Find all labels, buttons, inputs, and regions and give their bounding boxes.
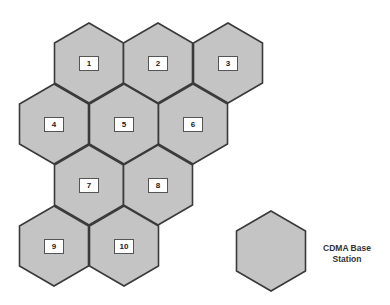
cell-label: 5 <box>114 117 134 132</box>
cell-label: 1 <box>79 56 99 71</box>
cell-label: 10 <box>114 239 134 254</box>
legend-hexagon-icon <box>237 211 306 291</box>
legend-label: CDMA Base Station <box>312 243 382 265</box>
legend-label-line1: CDMA Base <box>312 243 382 254</box>
cell-label: 3 <box>218 56 238 71</box>
cell-label: 7 <box>79 178 99 193</box>
cell-label: 9 <box>44 239 64 254</box>
cell-label: 6 <box>183 117 203 132</box>
cell-label: 2 <box>148 56 168 71</box>
cell-label: 8 <box>148 178 168 193</box>
legend-label-line2: Station <box>312 254 382 265</box>
cell-label: 4 <box>44 117 64 132</box>
